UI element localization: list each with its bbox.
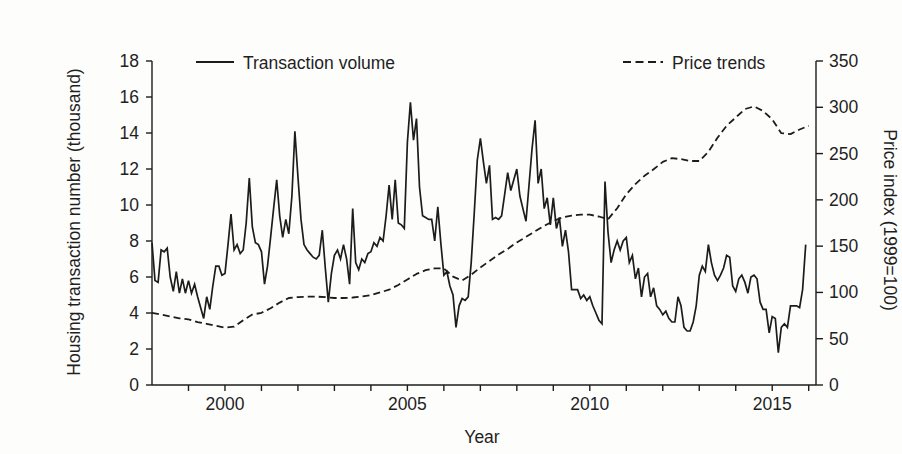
plot-frame [146, 61, 823, 391]
y-left-tick-label: 2 [129, 339, 139, 359]
y-left-tick-label: 0 [129, 375, 139, 395]
x-tick-label: 2000 [205, 394, 244, 414]
y-right-tick-label: 100 [829, 282, 858, 302]
legend: Transaction volume Price trends [196, 53, 766, 73]
y-left-tick-label: 12 [120, 159, 139, 179]
y-left-tick-label: 6 [129, 267, 139, 287]
y-right-tick-label: 50 [829, 329, 849, 349]
y-right-tick-label: 0 [829, 375, 839, 395]
x-tick-label: 2015 [753, 394, 792, 414]
legend-price-label: Price trends [672, 53, 766, 73]
y-right-tick-label: 250 [829, 144, 858, 164]
x-axis-title: Year [464, 427, 500, 447]
y-left-tick-label: 4 [129, 303, 139, 323]
y-left-axis-title: Housing transaction number (thousand) [64, 68, 84, 375]
y-right-tick-label: 200 [829, 190, 858, 210]
axis-tick-labels: 0246810121416180501001502002503003502000… [120, 51, 859, 414]
y-left-tick-label: 8 [129, 231, 139, 251]
legend-volume-label: Transaction volume [243, 53, 395, 73]
y-right-tick-label: 150 [829, 236, 858, 256]
y-left-tick-label: 14 [120, 123, 140, 143]
y-right-tick-label: 350 [829, 51, 858, 71]
x-tick-label: 2010 [570, 394, 609, 414]
y-left-tick-label: 18 [120, 51, 139, 71]
x-tick-label: 2005 [388, 394, 427, 414]
housing-chart-figure: 0246810121416180501001502002503003502000… [40, 16, 902, 454]
y-right-tick-label: 300 [829, 97, 858, 117]
y-left-tick-label: 16 [120, 87, 139, 107]
dual-axis-line-chart: 0246810121416180501001502002503003502000… [40, 16, 902, 454]
y-left-tick-label: 10 [120, 195, 140, 215]
y-right-axis-title: Price index (1999=100) [880, 129, 900, 310]
